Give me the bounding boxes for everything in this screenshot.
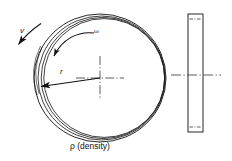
figure-canvas: v ω r ρ (density) <box>0 0 232 161</box>
angular-velocity-arc <box>54 33 94 56</box>
side-view-group <box>171 14 221 132</box>
density-caption: ρ (density) <box>0 141 180 151</box>
radius-arrow <box>41 78 100 86</box>
side-view-rectangle <box>188 14 203 132</box>
ring-inner-circle <box>44 19 165 138</box>
angular-velocity-label: ω <box>94 28 99 34</box>
ring-left-band-shading <box>34 46 43 95</box>
velocity-label: v <box>20 27 24 35</box>
diagram-vector-layer <box>0 0 232 161</box>
radius-label: r <box>60 68 63 76</box>
